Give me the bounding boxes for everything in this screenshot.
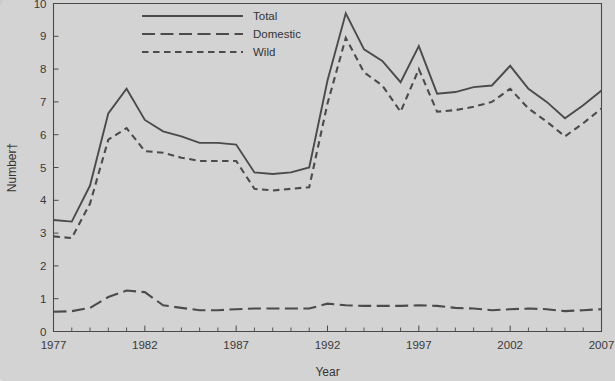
series-line-total bbox=[54, 13, 602, 221]
legend-label-wild: Wild bbox=[253, 46, 275, 58]
y-tick-label: 4 bbox=[40, 194, 47, 206]
x-axis-title: Year bbox=[315, 365, 339, 379]
y-tick-label: 5 bbox=[40, 162, 46, 174]
plot-frame bbox=[54, 4, 602, 332]
y-tick-label: 8 bbox=[40, 63, 46, 75]
y-tick-label: 1 bbox=[40, 293, 46, 305]
x-tick-label: 1987 bbox=[223, 339, 249, 351]
series-line-domestic bbox=[54, 291, 602, 312]
y-tick-label: 0 bbox=[40, 326, 46, 338]
y-axis-title: Number† bbox=[5, 143, 19, 192]
series-line-wild bbox=[54, 38, 602, 238]
x-tick-label: 1982 bbox=[132, 339, 158, 351]
y-tick-label: 10 bbox=[34, 0, 47, 10]
legend-label-domestic: Domestic bbox=[253, 28, 301, 40]
x-tick-label: 2002 bbox=[497, 339, 523, 351]
legend-label-total: Total bbox=[253, 10, 277, 22]
x-tick-label: 2007 bbox=[589, 339, 615, 351]
y-tick-label: 7 bbox=[40, 96, 46, 108]
y-tick-label: 3 bbox=[40, 227, 46, 239]
x-tick-label: 1997 bbox=[406, 339, 432, 351]
y-tick-label: 9 bbox=[40, 30, 46, 42]
x-tick-label: 1977 bbox=[41, 339, 67, 351]
x-tick-label: 1992 bbox=[315, 339, 341, 351]
y-tick-label: 6 bbox=[40, 129, 46, 141]
line-chart: 0123456789101977198219871992199720022007… bbox=[0, 0, 615, 381]
chart-figure: 0123456789101977198219871992199720022007… bbox=[0, 0, 615, 381]
y-tick-label: 2 bbox=[40, 260, 46, 272]
